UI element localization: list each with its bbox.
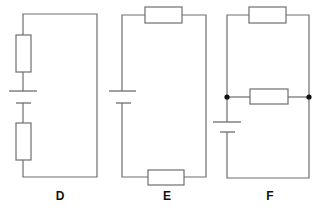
circuit-d-resistor-lower — [16, 123, 31, 160]
circuit-d-label: D — [56, 189, 65, 203]
circuit-d: D — [9, 14, 97, 203]
circuit-d-resistor-upper — [16, 35, 31, 72]
circuit-f-junction-left — [224, 94, 229, 99]
circuit-f-label: F — [266, 189, 273, 203]
circuit-e-resistor-top — [145, 7, 182, 23]
circuit-f-resistor-top — [249, 7, 286, 23]
circuit-e: E — [109, 7, 206, 203]
circuit-diagrams: D E F — [0, 0, 320, 213]
circuit-e-wire — [182, 15, 206, 177]
circuit-d-wire — [23, 14, 97, 177]
circuit-e-label: E — [163, 189, 171, 203]
circuit-e-resistor-bottom — [148, 170, 184, 185]
circuit-f-resistor-middle — [250, 89, 288, 104]
circuit-e-wire — [122, 103, 148, 177]
circuit-f-wire — [227, 15, 249, 122]
circuit-e-wire — [122, 15, 145, 91]
circuit-f-junction-right — [306, 94, 311, 99]
circuit-f: F — [213, 7, 312, 203]
